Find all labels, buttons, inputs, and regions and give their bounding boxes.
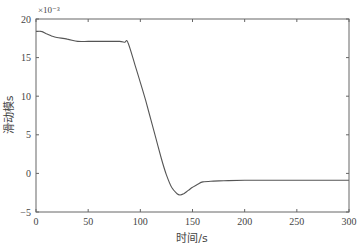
x-tick-label: 100 <box>133 216 148 227</box>
x-axis-label: 时间/s <box>176 232 208 245</box>
axes: 050100150200250300−505101520 <box>20 14 356 228</box>
y-tick-label: 15 <box>21 52 31 63</box>
y-axis-label: 滑动模s <box>3 95 16 134</box>
y-axis-multiplier: ×10⁻³ <box>38 5 60 15</box>
x-tick-label: 150 <box>185 216 200 227</box>
series-line <box>36 31 349 195</box>
plot-frame <box>36 19 349 212</box>
y-tick-label: 20 <box>21 14 31 25</box>
y-tick-label: 5 <box>26 129 31 140</box>
plot-area <box>36 31 349 195</box>
x-tick-label: 50 <box>83 216 93 227</box>
y-tick-label: 10 <box>21 91 31 102</box>
y-tick-label: 0 <box>26 168 31 179</box>
x-tick-label: 0 <box>34 216 39 227</box>
x-tick-label: 300 <box>342 216 357 227</box>
x-tick-label: 250 <box>289 216 304 227</box>
y-tick-label: −5 <box>20 207 31 218</box>
x-tick-label: 200 <box>237 216 252 227</box>
line-chart: 050100150200250300−505101520 ×10⁻³ 时间/s … <box>0 0 364 251</box>
